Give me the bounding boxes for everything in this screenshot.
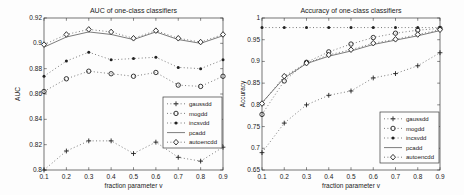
legend-label-gaussdd: gaussdd	[406, 116, 429, 122]
y-tick-label: 0.85	[247, 79, 260, 86]
x-tick-label: 0.1	[257, 173, 266, 180]
dot-marker	[327, 26, 330, 29]
one-class-classifier-figure: 0.10.20.30.40.50.60.70.80.90.80.820.840.…	[0, 0, 464, 195]
dot-marker	[65, 60, 68, 63]
y-tick-label: 0.86	[29, 90, 42, 97]
dot-marker	[261, 26, 264, 29]
y-tick-label: 0.95	[247, 36, 260, 43]
dot-marker	[222, 58, 225, 61]
dot-marker	[199, 67, 202, 70]
dot-marker	[305, 26, 308, 29]
y-tick-label: 1	[256, 14, 260, 21]
y-tick-label: 0.92	[29, 14, 42, 21]
x-axis-label: fraction parameter v	[105, 182, 164, 190]
dot-marker	[132, 57, 135, 60]
x-tick-label: 0.2	[280, 173, 289, 180]
x-tick-label: 0.1	[39, 173, 48, 180]
dot-marker	[110, 58, 113, 61]
dot-marker	[154, 56, 157, 59]
accuracy-chart: 0.10.20.30.40.50.60.70.80.90.650.70.750.…	[232, 0, 464, 195]
x-tick-label: 0.2	[62, 173, 71, 180]
chart-title: Accuracy of one-class classifiers	[300, 7, 402, 15]
x-tick-label: 0.8	[196, 173, 205, 180]
legend-label-autoencdd: autoencdd	[189, 139, 217, 145]
legend-label-incsvdd: incsvdd	[406, 135, 426, 141]
dot-marker	[394, 26, 397, 29]
y-tick-label: 0.8	[251, 101, 260, 108]
y-tick-label: 0.8	[33, 166, 42, 173]
y-axis-label: Accuracy	[239, 80, 247, 107]
legend-label-incsvdd: incsvdd	[189, 120, 209, 126]
legend-label-pcadd: pcadd	[189, 130, 205, 136]
x-tick-label: 0.6	[151, 173, 160, 180]
x-tick-label: 0.4	[324, 173, 333, 180]
auc-chart: 0.10.20.30.40.50.60.70.80.90.80.820.840.…	[0, 0, 232, 195]
dot-marker	[43, 75, 46, 78]
x-tick-label: 0.7	[391, 173, 400, 180]
legend-label-mogdd: mogdd	[406, 126, 424, 132]
y-tick-label: 0.82	[29, 141, 42, 148]
dot-marker	[87, 51, 90, 54]
y-tick-label: 0.84	[29, 115, 42, 122]
dot-marker	[372, 26, 375, 29]
dot-marker	[416, 26, 419, 29]
x-tick-label: 0.4	[107, 173, 116, 180]
x-tick-label: 0.3	[302, 173, 311, 180]
x-tick-label: 0.5	[346, 173, 355, 180]
y-tick-label: 0.75	[247, 123, 260, 130]
dot-marker	[392, 137, 395, 140]
x-tick-label: 0.7	[174, 173, 183, 180]
dot-marker	[283, 26, 286, 29]
y-tick-label: 0.9	[33, 39, 42, 46]
dot-marker	[177, 66, 180, 69]
x-tick-label: 0.5	[129, 173, 138, 180]
x-tick-label: 0.8	[413, 173, 422, 180]
legend-label-gaussdd: gaussdd	[189, 101, 212, 107]
x-tick-label: 0.3	[84, 173, 93, 180]
x-tick-label: 0.9	[435, 173, 444, 180]
y-tick-label: 0.65	[247, 166, 260, 173]
y-axis-label: AUC	[14, 87, 21, 101]
dot-marker	[350, 26, 353, 29]
y-tick-label: 0.88	[29, 65, 42, 72]
y-tick-label: 0.9	[251, 57, 260, 64]
x-tick-label: 0.6	[369, 173, 378, 180]
x-axis-label: fraction parameter v	[322, 182, 381, 190]
legend-label-autoencdd: autoencdd	[406, 154, 434, 160]
legend-label-mogdd: mogdd	[189, 111, 207, 117]
chart-title: AUC of one-class classifiers	[90, 7, 178, 14]
dot-marker	[175, 122, 178, 125]
x-tick-label: 0.9	[218, 173, 227, 180]
y-tick-label: 0.7	[251, 144, 260, 151]
legend-label-pcadd: pcadd	[406, 145, 422, 151]
